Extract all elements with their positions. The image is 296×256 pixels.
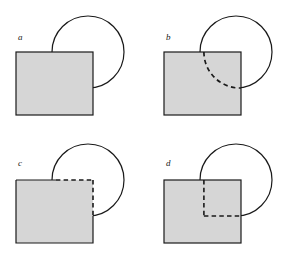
overlap-figure: a b c d bbox=[0, 0, 296, 256]
figure-container: a b c d bbox=[0, 0, 296, 256]
panel-c-label: c bbox=[18, 158, 22, 168]
panel-d-label: d bbox=[166, 158, 171, 168]
panel-d: d bbox=[164, 144, 272, 243]
panel-c-square-fill bbox=[16, 180, 93, 243]
panel-a-label: a bbox=[18, 32, 23, 42]
panel-d-square bbox=[164, 180, 241, 243]
panel-b-label: b bbox=[166, 32, 171, 42]
panel-a: a bbox=[16, 16, 124, 115]
panel-a-square bbox=[16, 52, 93, 115]
panel-b-square bbox=[164, 52, 241, 115]
panel-c: c bbox=[16, 144, 124, 243]
panel-b: b bbox=[164, 16, 272, 115]
